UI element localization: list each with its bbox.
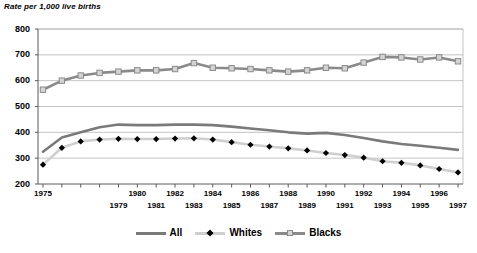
legend-label: Whites bbox=[229, 228, 262, 238]
series-marker-whites bbox=[323, 150, 329, 156]
x-axis-tick-label: 1980 bbox=[117, 190, 157, 198]
series-marker-whites bbox=[172, 135, 178, 141]
x-axis-tick-label: 1992 bbox=[344, 190, 384, 198]
series-marker-whites bbox=[191, 135, 197, 141]
x-axis-tick-label: 1981 bbox=[136, 202, 176, 210]
series-marker-blacks bbox=[229, 66, 234, 71]
series-marker-blacks bbox=[267, 68, 272, 73]
series-marker-blacks bbox=[97, 70, 102, 75]
series-marker-blacks bbox=[323, 65, 328, 70]
series-marker-whites bbox=[342, 152, 348, 158]
series-marker-blacks bbox=[286, 69, 291, 74]
series-marker-whites bbox=[153, 136, 159, 142]
series-marker-whites bbox=[134, 136, 140, 142]
x-axis-tick-label: 1984 bbox=[193, 190, 233, 198]
x-axis-tick-label: 1990 bbox=[306, 190, 346, 198]
chart-container: Rate per 1,000 live births 2003004005006… bbox=[0, 0, 477, 253]
legend-swatch-whites-icon bbox=[195, 228, 225, 238]
series-marker-whites bbox=[379, 158, 385, 164]
series-marker-whites bbox=[210, 136, 216, 142]
series-marker-blacks bbox=[342, 66, 347, 71]
series-marker-whites bbox=[229, 139, 235, 145]
x-axis-tick-label: 1986 bbox=[231, 190, 271, 198]
x-axis-tick-label: 1991 bbox=[325, 202, 365, 210]
y-axis-tick-label: 200 bbox=[2, 180, 30, 189]
series-marker-whites bbox=[304, 147, 310, 153]
series-marker-blacks bbox=[248, 66, 253, 71]
chart-legend: AllWhitesBlacks bbox=[0, 228, 477, 238]
x-axis-tick-label: 1997 bbox=[438, 202, 477, 210]
y-axis-tick-label: 400 bbox=[2, 128, 30, 137]
series-marker-whites bbox=[398, 160, 404, 166]
y-axis-tick-label: 300 bbox=[2, 154, 30, 163]
series-marker-blacks bbox=[153, 68, 158, 73]
x-axis-tick-label: 1994 bbox=[381, 190, 421, 198]
series-marker-whites bbox=[436, 166, 442, 172]
x-axis-tick-label: 1988 bbox=[268, 190, 308, 198]
y-axis-tick-label: 500 bbox=[2, 102, 30, 111]
legend-label: Blacks bbox=[309, 228, 341, 238]
series-marker-blacks bbox=[418, 57, 423, 62]
series-marker-whites bbox=[115, 136, 121, 142]
series-marker-blacks bbox=[116, 69, 121, 74]
series-marker-whites bbox=[361, 155, 367, 161]
series-line-blacks bbox=[43, 57, 458, 90]
series-marker-blacks bbox=[40, 87, 45, 92]
legend-square-marker-icon bbox=[287, 230, 293, 236]
x-axis-tick-label: 1985 bbox=[212, 202, 252, 210]
x-axis-tick-label: 1975 bbox=[23, 190, 63, 198]
legend-swatch-all-icon bbox=[136, 228, 166, 238]
x-axis-tick-label: 1993 bbox=[363, 202, 403, 210]
series-marker-blacks bbox=[59, 78, 64, 83]
chart-plot-area bbox=[0, 0, 477, 253]
y-axis-tick-label: 800 bbox=[2, 25, 30, 34]
series-marker-blacks bbox=[455, 59, 460, 64]
x-axis-tick-label: 1995 bbox=[400, 202, 440, 210]
x-axis-tick-label: 1979 bbox=[98, 202, 138, 210]
legend-entry-whites[interactable]: Whites bbox=[195, 228, 262, 238]
series-marker-whites bbox=[266, 143, 272, 149]
series-marker-whites bbox=[96, 136, 102, 142]
series-marker-whites bbox=[78, 138, 84, 144]
legend-entry-blacks[interactable]: Blacks bbox=[275, 228, 341, 238]
series-marker-blacks bbox=[436, 55, 441, 60]
legend-label: All bbox=[170, 228, 183, 238]
x-axis-tick-label: 1989 bbox=[287, 202, 327, 210]
series-marker-blacks bbox=[135, 68, 140, 73]
legend-entry-all[interactable]: All bbox=[136, 228, 183, 238]
series-marker-whites bbox=[247, 142, 253, 148]
series-marker-whites bbox=[455, 169, 461, 175]
x-axis-tick-label: 1996 bbox=[419, 190, 459, 198]
y-axis-tick-label: 700 bbox=[2, 50, 30, 59]
series-marker-blacks bbox=[191, 60, 196, 65]
series-marker-whites bbox=[417, 162, 423, 168]
x-axis-tick-label: 1983 bbox=[174, 202, 214, 210]
y-axis-tick-label: 600 bbox=[2, 76, 30, 85]
series-marker-blacks bbox=[380, 54, 385, 59]
legend-swatch-blacks-icon bbox=[275, 228, 305, 238]
series-marker-whites bbox=[285, 145, 291, 151]
x-axis-tick-label: 1987 bbox=[249, 202, 289, 210]
x-axis-tick-label: 1982 bbox=[155, 190, 195, 198]
series-marker-blacks bbox=[210, 65, 215, 70]
series-marker-blacks bbox=[78, 73, 83, 78]
series-marker-blacks bbox=[361, 60, 366, 65]
series-marker-blacks bbox=[399, 55, 404, 60]
series-marker-blacks bbox=[172, 66, 177, 71]
series-marker-blacks bbox=[304, 68, 309, 73]
